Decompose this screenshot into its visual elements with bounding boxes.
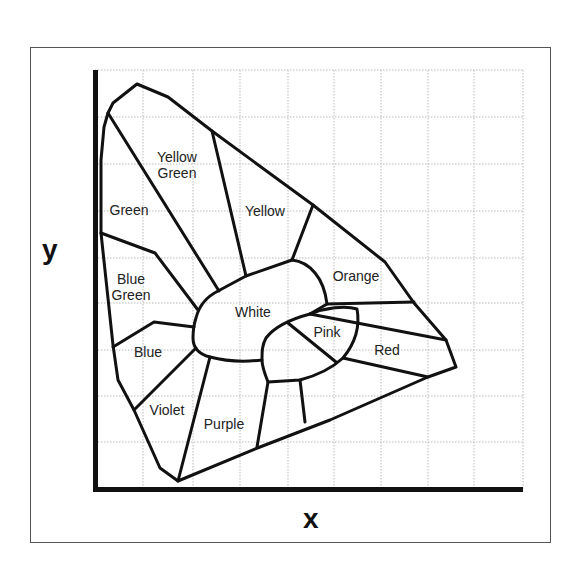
divider-red-lower <box>343 358 428 377</box>
region-boundaries <box>101 84 456 481</box>
grid <box>95 70 523 489</box>
divider-yellow-orange <box>292 205 313 260</box>
divider-lower-right <box>300 380 305 422</box>
y-axis-label: y <box>42 236 58 264</box>
region-label-white: White <box>235 304 271 320</box>
divider-purple-lower <box>257 382 268 447</box>
x-axis-label: x <box>303 505 319 533</box>
chromaticity-diagram: y x Yellow GreenGreenYellowBlue GreenOra… <box>0 0 584 571</box>
spectral-locus-outline <box>101 84 456 481</box>
region-label-pink: Pink <box>313 324 340 340</box>
region-label-yellow: Yellow <box>245 203 285 219</box>
region-label-orange: Orange <box>333 268 380 284</box>
x-axis <box>93 487 523 492</box>
pink-region-boundary <box>262 307 358 382</box>
region-label-red: Red <box>374 342 400 358</box>
region-label-violet: Violet <box>150 402 185 418</box>
region-label-green: Green <box>110 202 149 218</box>
divider-orange-red <box>327 302 414 304</box>
region-label-blue-green: Blue Green <box>112 271 151 303</box>
region-label-blue: Blue <box>134 344 162 360</box>
region-label-yellow-green: Yellow Green <box>157 149 197 181</box>
y-axis <box>93 70 98 491</box>
region-label-purple: Purple <box>204 416 244 432</box>
diagram-canvas <box>0 0 584 571</box>
